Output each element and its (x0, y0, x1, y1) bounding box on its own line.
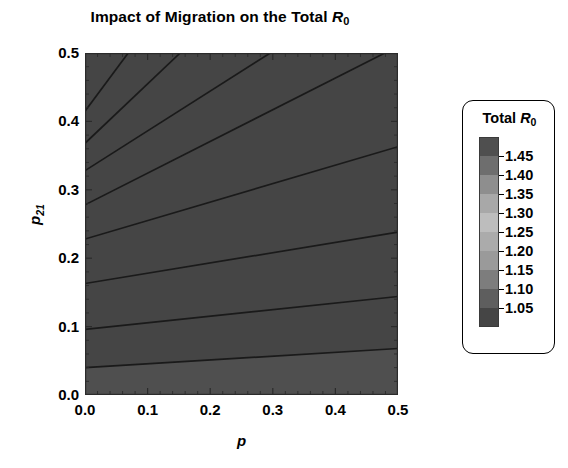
legend-tick-mark (499, 156, 504, 157)
legend-color-swatch (479, 308, 499, 327)
contour-plot-panel (85, 53, 398, 395)
legend-color-swatch (479, 289, 499, 308)
legend-color-swatch (479, 270, 499, 289)
x-axis-tick-label: 0.5 (375, 401, 421, 418)
x-axis-title: p (85, 432, 398, 449)
contour-band (85, 53, 398, 368)
x-axis-tick-label: 0.4 (312, 401, 358, 418)
legend-color-swatch (479, 213, 499, 232)
legend-title-symbol: R (520, 110, 530, 126)
legend-tick-mark (499, 213, 504, 214)
legend-tick-mark (499, 270, 504, 271)
x-axis-tick-label: 0.2 (187, 401, 233, 418)
legend-color-swatch (479, 137, 499, 156)
legend-value-label: 1.25 (505, 224, 533, 240)
y-axis-title-symbol: p (26, 216, 43, 225)
legend-color-swatch (479, 156, 499, 175)
chart-title-symbol-subscript: 0 (343, 15, 349, 27)
legend-tick-mark (499, 232, 504, 233)
legend-title: Impact of Migration on the Total Total R… (463, 110, 556, 128)
x-axis-tick-label: 0.1 (125, 401, 171, 418)
y-axis-tick-label: 0.2 (37, 249, 79, 266)
chart-title-symbol: R (332, 8, 343, 25)
y-axis-title-subscript: 21 (34, 204, 46, 216)
legend-tick-mark (499, 251, 504, 252)
legend-value-label: 1.30 (505, 205, 533, 221)
x-axis-title-symbol: p (237, 432, 246, 449)
legend-colorbar (479, 137, 499, 327)
legend-value-label: 1.40 (505, 167, 533, 183)
x-axis-tick-label: 0.3 (250, 401, 296, 418)
contour-plot-svg (85, 53, 398, 395)
legend-tick-mark (499, 175, 504, 176)
legend-title-lead: Total (483, 110, 521, 126)
legend-tick-mark (499, 194, 504, 195)
y-axis-tick-label: 0.5 (37, 44, 79, 61)
legend-value-label: 1.20 (505, 243, 533, 259)
chart-figure: Impact of Migration on the Total R0 0.00… (0, 0, 568, 468)
legend-tick-mark (499, 308, 504, 309)
legend-color-swatch (479, 175, 499, 194)
y-axis-tick-label: 0.1 (37, 318, 79, 335)
legend-tick-mark (499, 289, 504, 290)
legend-color-swatch (479, 194, 499, 213)
legend-title-subscript: 0 (531, 116, 537, 128)
chart-title-text: Impact of Migration on the Total (90, 8, 332, 25)
legend-value-label: 1.15 (505, 262, 533, 278)
legend-value-label: 1.35 (505, 186, 533, 202)
y-axis-tick-label: 0.4 (37, 112, 79, 129)
chart-title: Impact of Migration on the Total R0 (0, 8, 440, 27)
legend-panel: Impact of Migration on the Total Total R… (462, 100, 555, 354)
y-axis-title: p21 (26, 195, 45, 235)
contour-band-layer (85, 53, 398, 395)
legend-value-label: 1.10 (505, 281, 533, 297)
legend-value-label: 1.05 (505, 300, 533, 316)
legend-color-swatch (479, 251, 499, 270)
legend-value-label: 1.45 (505, 148, 533, 164)
x-axis-tick-label: 0.0 (62, 401, 108, 418)
legend-color-swatch (479, 232, 499, 251)
